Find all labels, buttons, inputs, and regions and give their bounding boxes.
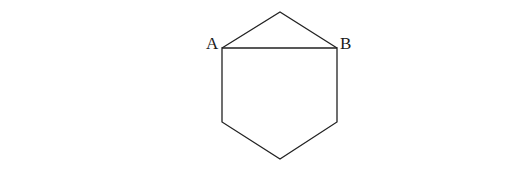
hexagon xyxy=(222,48,337,159)
triangle xyxy=(222,12,337,48)
label-b: B xyxy=(340,34,351,53)
geometry-figure: A B xyxy=(0,0,529,170)
label-a: A xyxy=(206,34,219,53)
